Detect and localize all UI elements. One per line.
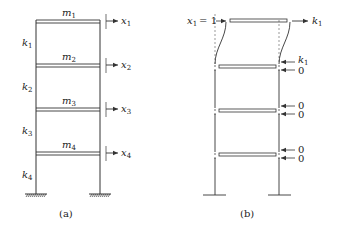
floor2-force-label-2: 0 bbox=[298, 65, 304, 76]
displacement-label-1: x1 bbox=[121, 15, 131, 28]
displacement-label-4: x4 bbox=[121, 147, 132, 160]
floor-2-a bbox=[36, 64, 100, 67]
floor-1-a bbox=[36, 20, 100, 23]
floor-4-b bbox=[219, 153, 276, 156]
stiffness-label-4: k4 bbox=[22, 169, 33, 182]
ground-support-left-a bbox=[25, 194, 47, 197]
floor-1-b bbox=[230, 19, 287, 22]
frame-a: m1 m2 m3 m4 k1 k2 k3 k4 x1 x2 x3 x4 ( bbox=[22, 7, 132, 219]
lower-columns-b bbox=[215, 70, 279, 195]
displacement-arrow-3 bbox=[106, 102, 118, 117]
stiffness-label-1: k1 bbox=[22, 37, 33, 50]
floor4-force-label-2: 0 bbox=[298, 153, 304, 164]
caption-b: (b) bbox=[240, 208, 254, 219]
floor-3-a bbox=[36, 108, 100, 111]
caption-a: (a) bbox=[59, 208, 73, 219]
deflected-column-right bbox=[279, 22, 290, 64]
floor-4-a bbox=[36, 152, 100, 155]
ground-support-right-a bbox=[89, 194, 111, 197]
deflected-column-left bbox=[215, 22, 226, 64]
floor-3-b bbox=[219, 109, 276, 112]
imposed-displacement-label: x1= 1 bbox=[187, 15, 217, 28]
stiffness-label-3: k3 bbox=[22, 125, 33, 138]
figure-canvas: m1 m2 m3 m4 k1 k2 k3 k4 x1 x2 x3 x4 ( bbox=[0, 0, 338, 229]
mass-label-3: m3 bbox=[62, 95, 76, 108]
top-force-label: k1 bbox=[312, 15, 323, 28]
displacement-label-3: x3 bbox=[121, 103, 131, 116]
frame-b: x1= 1 k1 k1 0 0 0 0 0 (b) bbox=[187, 14, 323, 219]
displacement-arrow-1 bbox=[106, 14, 118, 29]
floor-2-b bbox=[219, 65, 276, 68]
displacement-arrow-2 bbox=[106, 58, 118, 73]
floor3-force-label-2: 0 bbox=[298, 109, 304, 120]
mass-label-4: m4 bbox=[62, 139, 76, 152]
mass-label-1: m1 bbox=[62, 7, 76, 20]
displacement-label-2: x2 bbox=[121, 59, 131, 72]
stiffness-label-2: k2 bbox=[22, 81, 33, 94]
mass-label-2: m2 bbox=[62, 51, 76, 64]
displacement-arrow-4 bbox=[106, 146, 118, 161]
